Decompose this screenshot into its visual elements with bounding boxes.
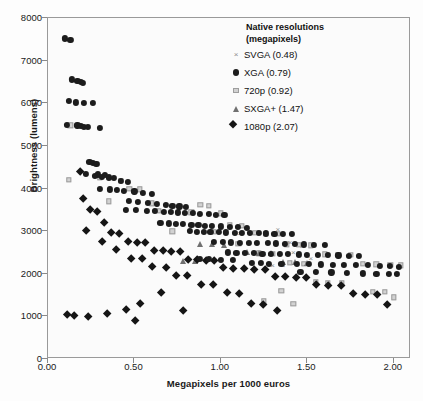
data-point [98, 173, 104, 179]
legend-item[interactable]: 720p (0.92) [228, 82, 373, 99]
legend-item-label: SVGA (0.48) [244, 49, 297, 60]
data-point [93, 161, 99, 167]
data-point [313, 269, 319, 275]
data-point [391, 294, 396, 299]
data-point [154, 201, 160, 207]
data-point [175, 209, 181, 215]
data-point [353, 262, 359, 268]
data-point [81, 100, 87, 106]
data-point [244, 268, 250, 274]
data-point [297, 269, 303, 275]
data-point [325, 252, 331, 258]
data-point [247, 354, 254, 357]
data-point [173, 221, 179, 227]
data-point [75, 315, 81, 321]
data-point [294, 261, 300, 267]
data-point [211, 239, 217, 245]
data-point [247, 230, 253, 236]
x-tick-mark [47, 358, 48, 363]
data-point [356, 253, 362, 259]
data-point [285, 251, 291, 257]
x-tick-mark [133, 358, 134, 363]
data-point [289, 231, 295, 237]
data-point [394, 271, 400, 277]
data-point [181, 210, 187, 216]
data-point [90, 100, 96, 106]
data-point [365, 294, 371, 300]
data-point [200, 229, 206, 235]
legend-marker-icon [228, 69, 244, 75]
data-point [227, 293, 233, 299]
data-point [195, 222, 201, 228]
data-point [121, 188, 127, 194]
legend-item-label: 720p (0.92) [244, 85, 293, 96]
data-point [232, 230, 238, 236]
data-point [188, 222, 194, 228]
data-point [219, 239, 225, 245]
data-point [365, 262, 371, 268]
data-point [114, 187, 120, 193]
y-tick-label: 5000 [2, 139, 42, 150]
data-point [292, 241, 298, 247]
legend-item[interactable]: XGA (0.79) [228, 64, 373, 81]
data-point [223, 268, 229, 274]
data-point [306, 277, 312, 283]
data-point [187, 228, 193, 234]
data-point [259, 250, 265, 256]
data-point [318, 261, 324, 267]
data-point [131, 188, 137, 194]
data-point [213, 284, 219, 290]
data-point [107, 186, 113, 192]
data-point [161, 208, 167, 214]
legend: Native resolutions (megapixels) SVGA (0.… [228, 22, 373, 135]
data-point [183, 310, 189, 316]
legend-marker-icon [228, 124, 244, 130]
data-point [206, 211, 212, 217]
legend-item[interactable]: SXGA+ (1.47) [228, 100, 373, 117]
data-point [201, 284, 207, 290]
data-point [161, 292, 167, 298]
data-point [330, 261, 336, 267]
data-point [106, 199, 111, 204]
data-point [396, 263, 402, 269]
legend-marker-icon [228, 88, 244, 93]
data-point [242, 250, 248, 256]
data-point [97, 211, 103, 217]
data-point [92, 173, 98, 179]
data-point [102, 241, 108, 247]
legend-title-line1: Native resolutions [246, 22, 373, 34]
data-point [268, 251, 274, 257]
data-point [123, 207, 129, 213]
data-point [285, 276, 291, 282]
data-point [85, 124, 91, 130]
data-point [387, 304, 393, 310]
data-point [251, 303, 257, 309]
data-point [387, 263, 393, 269]
legend-marker-icon [228, 106, 244, 112]
data-point [143, 208, 149, 214]
data-point [296, 277, 302, 283]
data-point [87, 230, 93, 236]
data-point [275, 276, 281, 282]
data-point [177, 275, 183, 281]
legend-item[interactable]: 1080p (2.07) [228, 118, 373, 135]
data-point [341, 285, 347, 291]
data-point [107, 314, 113, 320]
data-point [353, 294, 359, 300]
data-point [124, 179, 130, 185]
data-point [194, 228, 200, 234]
y-tick-label: 8000 [2, 12, 42, 23]
data-point [126, 309, 132, 315]
data-point [213, 211, 219, 217]
data-point [152, 267, 158, 273]
data-point [126, 198, 132, 204]
data-point [301, 241, 307, 247]
data-point [265, 269, 271, 275]
legend-item[interactable]: SVGA (0.48) [228, 46, 373, 63]
legend-marker-icon [228, 51, 244, 58]
y-tick-label: 3000 [2, 225, 42, 236]
x-tick-mark [220, 358, 221, 363]
data-point [187, 276, 193, 282]
data-point [66, 98, 72, 104]
data-point [166, 220, 172, 226]
